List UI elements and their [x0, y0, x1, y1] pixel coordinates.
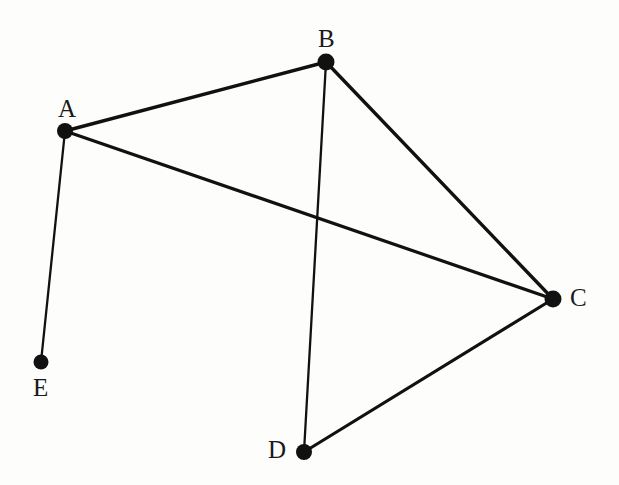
graph-node-a[interactable]	[57, 123, 73, 139]
graph-node-d[interactable]	[296, 444, 312, 460]
node-label-e: E	[33, 375, 48, 400]
node-label-c: C	[570, 285, 587, 310]
graph-node-c[interactable]	[545, 291, 562, 308]
graph-canvas: ABCDE	[0, 0, 619, 485]
node-label-b: B	[318, 26, 335, 51]
graph-edge-a-c	[65, 131, 553, 299]
graph-edge-b-c	[326, 62, 553, 299]
edge-layer	[41, 62, 553, 452]
graph-edge-b-d	[304, 62, 326, 452]
graph-node-b[interactable]	[318, 54, 335, 71]
graph-svg	[0, 0, 619, 485]
node-label-d: D	[268, 437, 286, 462]
node-label-a: A	[58, 96, 76, 121]
graph-node-e[interactable]	[34, 355, 49, 370]
graph-edge-a-e	[41, 131, 65, 362]
node-layer	[34, 54, 562, 461]
graph-edge-a-b	[65, 62, 326, 131]
graph-edge-c-d	[304, 299, 553, 452]
